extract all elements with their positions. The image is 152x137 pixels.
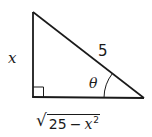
base-label: √ 25 − x 2: [36, 113, 100, 131]
radicand-operator: −: [70, 117, 82, 131]
hypotenuse-label: 5: [98, 44, 108, 59]
radicand-exponent: 2: [93, 116, 99, 125]
angle-theta-label: θ: [89, 76, 97, 90]
radicand-constant: 25: [49, 117, 67, 131]
right-triangle-diagram: x 5 θ √ 25 − x 2: [0, 0, 152, 137]
radicand: 25 − x 2: [47, 114, 100, 131]
square-root-icon: √: [36, 112, 47, 129]
radicand-variable: x: [84, 117, 92, 131]
right-angle-marker: [33, 87, 44, 97]
base-leg: [32, 97, 144, 98]
angle-arc: [104, 74, 112, 98]
vertical-side-label: x: [8, 51, 16, 66]
